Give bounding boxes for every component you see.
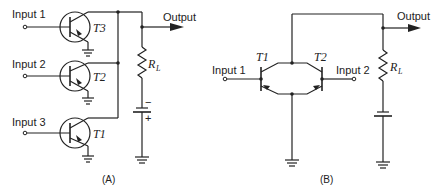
- transistor-label-t1: T1: [93, 127, 106, 141]
- input-2-terminal: [352, 77, 356, 81]
- battery-icon: [374, 112, 392, 162]
- ground-icon: [82, 156, 94, 162]
- output-label: Output: [163, 11, 196, 23]
- output-label: Output: [397, 10, 430, 22]
- input-2-terminal: [23, 74, 27, 78]
- input-3-terminal: [23, 131, 27, 135]
- input-1-label: Input 1: [12, 8, 46, 20]
- input-2-label: Input 2: [12, 58, 46, 70]
- transistor-pair: [259, 61, 324, 96]
- output-arrow-icon: [170, 23, 184, 31]
- input-1-label: Input 1: [212, 64, 246, 76]
- transistor-label-t2: T2: [93, 70, 106, 84]
- ground-icon: [82, 98, 94, 104]
- ground-icon: [376, 162, 390, 168]
- transistor-label-t3: T3: [93, 21, 106, 35]
- resistor-subscript: L: [397, 67, 403, 76]
- ground-icon: [82, 48, 94, 56]
- resistor-subscript: L: [155, 64, 161, 73]
- resistor-label: R: [147, 57, 156, 71]
- output-arrow-icon: [408, 24, 421, 32]
- resistor-rl: [379, 50, 387, 81]
- input-1-terminal: [223, 77, 227, 81]
- transistor-label-t1: T1: [256, 50, 269, 64]
- diagram-a: Input 1 Input 2 Input 3 T3 T2 T1 Output …: [12, 8, 196, 185]
- battery-minus: −: [145, 96, 151, 108]
- input-3-label: Input 3: [12, 116, 46, 128]
- transistor-label-t2: T2: [314, 50, 327, 64]
- input-2-label: Input 2: [336, 64, 370, 76]
- battery-plus: +: [145, 112, 151, 124]
- input-1-terminal: [23, 25, 27, 29]
- caption-a: (A): [102, 174, 115, 185]
- circuit-diagrams: Input 1 Input 2 Input 3 T3 T2 T1 Output …: [0, 0, 436, 194]
- ground-icon: [135, 157, 149, 163]
- ground-icon: [285, 160, 299, 166]
- resistor-label: R: [389, 60, 398, 74]
- diagram-b: Input 1 Input 2 T1 T2 Output R L (B): [212, 10, 430, 185]
- caption-b: (B): [320, 174, 333, 185]
- resistor-rl: [138, 47, 146, 78]
